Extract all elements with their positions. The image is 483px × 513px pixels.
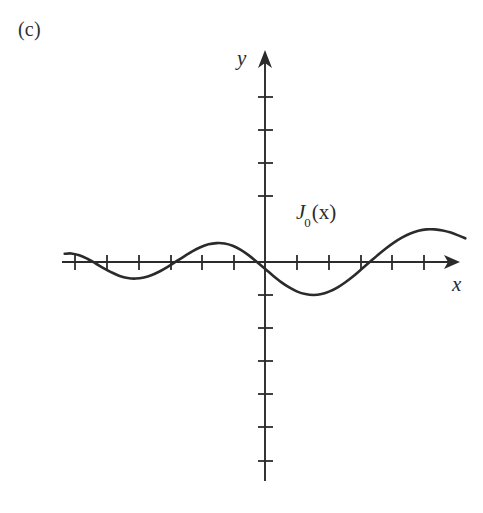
curve-label-argument: (x) (312, 200, 337, 224)
figure-panel: (c) (0, 0, 483, 513)
plot-canvas (0, 0, 483, 513)
curve-label-subscript: 0 (304, 215, 311, 230)
curve-label: J0(x) (296, 200, 336, 228)
x-axis-label: x (452, 272, 461, 297)
y-axis-label: y (237, 46, 246, 71)
